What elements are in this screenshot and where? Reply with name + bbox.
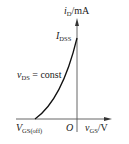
x-axis-arrow-icon — [104, 117, 112, 121]
origin-label: O — [66, 123, 73, 133]
vds-const-label: vDS = const — [17, 70, 62, 82]
vgs-off-label: VGS(off) — [16, 123, 42, 135]
x-axis-label: vGS/V — [85, 123, 108, 135]
idss-label: IDSS — [56, 31, 71, 43]
y-axis-label: iD/mA — [64, 6, 89, 18]
y-axis-arrow-icon — [75, 18, 79, 26]
